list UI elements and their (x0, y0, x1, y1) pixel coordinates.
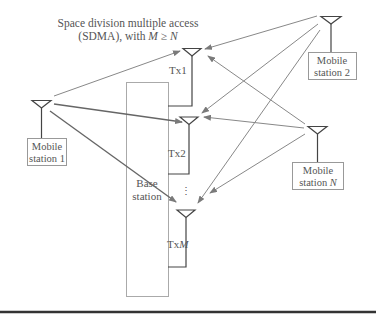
antenna-ellipsis: ⋮ (181, 185, 191, 196)
mobile-station-1: Mobile station 1 (28, 101, 67, 166)
sdma-diagram: Space division multiple access (SDMA), w… (0, 0, 376, 318)
tx1-label: Tx1 (169, 64, 187, 76)
mobile-station-1-label-line2: station 1 (29, 153, 65, 164)
arrow-ms2-tx1 (205, 16, 317, 49)
arrow-ms2-tx2 (202, 24, 318, 113)
antenna-icon (321, 17, 341, 25)
mobile-station-n-label-line2: station N (299, 177, 338, 188)
tx2-antenna (168, 117, 198, 174)
arrow-ms1-tx2 (54, 104, 182, 122)
mobile-station-2-label-line2: station 2 (314, 67, 350, 78)
antenna-icon (308, 127, 327, 135)
txm-label: TxM (167, 238, 189, 250)
mobile-station-n-label-line1: Mobile (303, 165, 334, 176)
mobile-station-1-label-line1: Mobile (32, 141, 63, 152)
arrow-msn-tx2 (204, 117, 304, 128)
signal-arrows (50, 16, 320, 203)
arrow-ms1-tx1 (54, 51, 180, 96)
arrow-msn-txm (210, 134, 305, 193)
mobile-station-2-label-line1: Mobile (317, 55, 348, 66)
diagram-title-line1: Space division multiple access (58, 17, 199, 30)
antenna-icon (183, 49, 201, 57)
arrow-msn-tx1 (208, 56, 305, 124)
tx1-antenna (168, 49, 201, 107)
antenna-icon (180, 117, 198, 125)
antenna-icon (177, 210, 195, 218)
mobile-station-n: Mobile station N (293, 127, 344, 190)
arrow-ms1-txm (50, 111, 176, 202)
antenna-icon (32, 101, 51, 109)
base-station-label-line2: station (132, 190, 162, 202)
diagram-title-line2: (SDMA), with M ≥ N (78, 30, 179, 43)
tx2-label: Tx2 (168, 147, 186, 159)
